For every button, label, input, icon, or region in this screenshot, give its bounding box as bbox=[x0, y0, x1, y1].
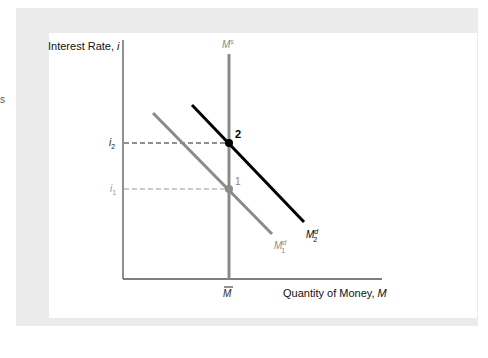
m-bar-tick-label: M bbox=[223, 288, 232, 299]
point-2-label: 2 bbox=[235, 128, 241, 140]
x-axis-label: Quantity of Money, M bbox=[283, 287, 388, 299]
money-demand-2-label: Md2 bbox=[306, 228, 319, 243]
y-axis-label: Interest Rate, i bbox=[48, 40, 120, 52]
money-supply-label: Ms bbox=[222, 38, 234, 50]
equilibrium-point-1 bbox=[225, 185, 233, 193]
equilibrium-point-2 bbox=[225, 139, 233, 147]
i1-tick-label: i1 bbox=[110, 183, 116, 196]
money-market-diagram: Interest Rate, i Ms i2 i1 2 1 Md2 Md1 M … bbox=[0, 0, 488, 358]
i2-tick-label: i2 bbox=[109, 137, 115, 150]
money-demand-1-label: Md1 bbox=[274, 239, 287, 254]
money-demand-2-curve bbox=[192, 105, 304, 222]
point-1-label: 1 bbox=[235, 176, 241, 187]
money-demand-1-curve bbox=[153, 113, 272, 234]
